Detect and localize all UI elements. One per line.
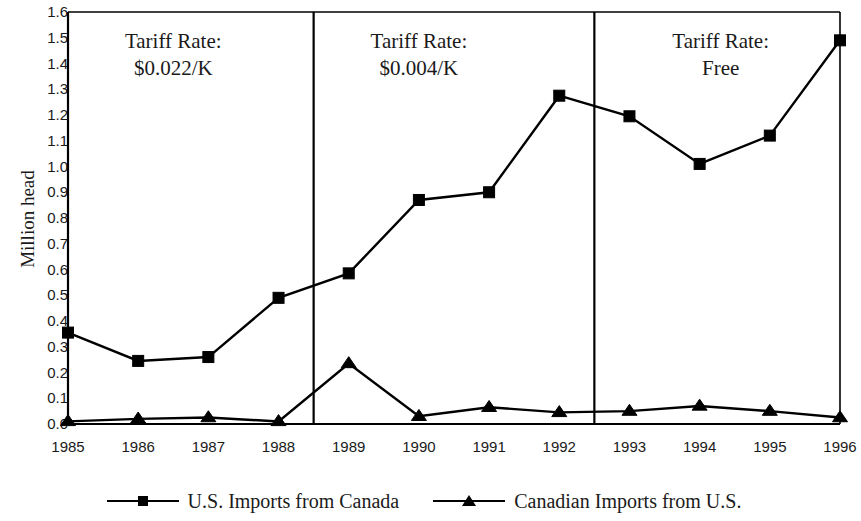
marker-square	[133, 355, 144, 366]
series-line	[68, 40, 840, 361]
marker-triangle	[341, 357, 356, 368]
legend-label: Canadian Imports from U.S.	[514, 490, 741, 513]
marker-square	[484, 187, 495, 198]
marker-square	[835, 35, 846, 46]
triangle-icon	[462, 495, 476, 506]
legend-square-marker-icon	[107, 493, 179, 509]
legend-item[interactable]: U.S. Imports from Canada	[107, 490, 400, 513]
marker-square	[694, 158, 705, 169]
marker-triangle	[201, 411, 216, 422]
square-icon	[138, 496, 148, 506]
axis-frame	[68, 12, 840, 424]
marker-square	[413, 194, 424, 205]
chart-legend: U.S. Imports from CanadaCanadian Imports…	[0, 484, 848, 518]
legend-label: U.S. Imports from Canada	[188, 490, 400, 513]
period-dividers	[314, 12, 595, 424]
marker-triangle	[131, 412, 146, 423]
marker-triangle	[692, 399, 707, 410]
series-us-imports-from-canada	[63, 35, 846, 367]
marker-square	[343, 268, 354, 279]
marker-square	[273, 292, 284, 303]
marker-square	[554, 90, 565, 101]
legend-triangle-marker-icon	[433, 493, 505, 509]
marker-triangle	[482, 400, 497, 411]
marker-square	[63, 327, 74, 338]
marker-square	[203, 352, 214, 363]
data-series-layer	[61, 35, 848, 426]
legend-item[interactable]: Canadian Imports from U.S.	[433, 490, 741, 513]
marker-square	[624, 111, 635, 122]
series-line	[68, 363, 840, 421]
series-canadian-imports-from-us	[61, 357, 848, 426]
marker-square	[764, 130, 775, 141]
